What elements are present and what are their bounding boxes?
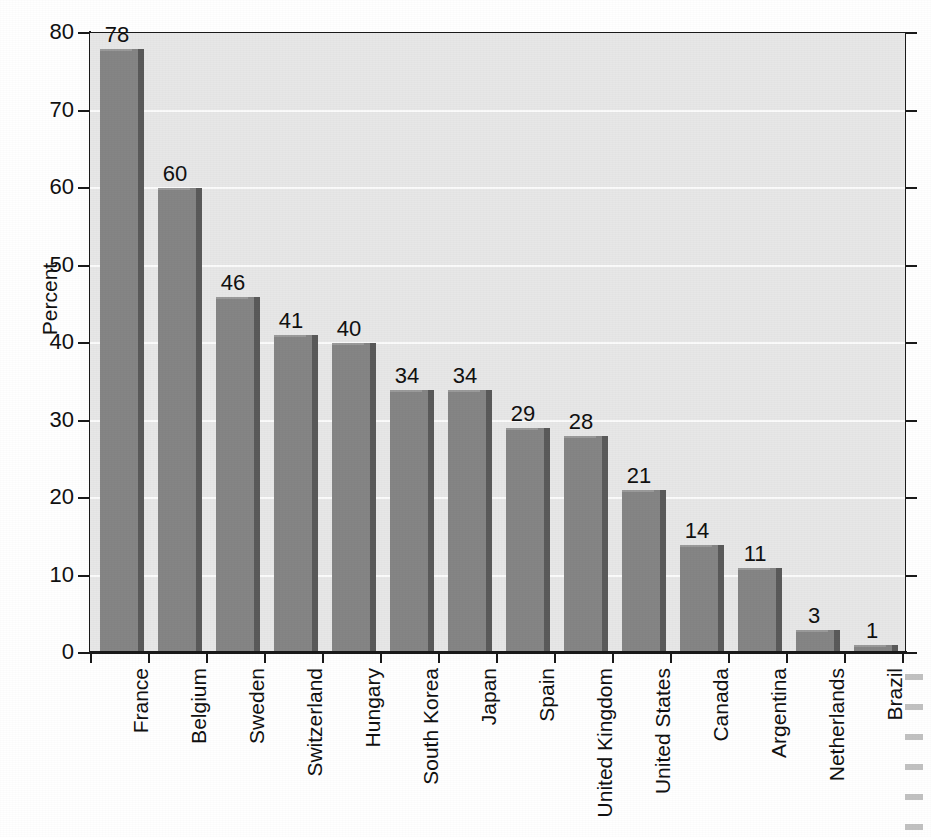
bar-top-highlight — [216, 297, 248, 299]
bar-top-highlight — [622, 490, 654, 492]
bar-value-label: 3 — [808, 605, 820, 627]
y-axis-tick-label: 40 — [0, 331, 74, 353]
bar-value-label: 14 — [685, 520, 709, 542]
chart-page: 78604641403434292821141131 0102030405060… — [0, 0, 931, 837]
y-axis-tick-right — [906, 342, 917, 344]
bar-value-label: 46 — [221, 272, 245, 294]
bar-value-label: 28 — [569, 411, 593, 433]
x-axis-category-label: Japan — [478, 668, 499, 725]
bar: 28 — [564, 436, 608, 653]
bar: 34 — [448, 390, 492, 654]
bar-value-label: 40 — [337, 318, 361, 340]
bar-value-label: 34 — [453, 365, 477, 387]
x-axis-category-label: Brazil — [884, 668, 905, 721]
y-axis-tick-label: 20 — [0, 486, 74, 508]
x-axis-tick — [612, 653, 614, 663]
page-margin-artifact — [905, 665, 923, 830]
bar-value-label: 29 — [511, 403, 535, 425]
y-axis-tick-right — [906, 652, 917, 654]
y-axis-tick-left — [78, 110, 89, 112]
x-axis-category-label: France — [130, 668, 151, 733]
bar-value-label: 1 — [866, 620, 878, 642]
y-axis-tick-label: 70 — [0, 99, 74, 121]
gridline — [90, 420, 905, 422]
x-axis-tick — [148, 653, 150, 663]
x-axis-category-label: United States — [652, 668, 673, 794]
bar-top-highlight — [564, 436, 596, 438]
y-axis-tick-label: 60 — [0, 176, 74, 198]
x-axis-tick — [496, 653, 498, 663]
gridline — [90, 187, 905, 189]
x-axis-tick — [380, 653, 382, 663]
x-axis-category-label: South Korea — [420, 668, 441, 785]
bar: 21 — [622, 490, 666, 653]
x-axis-category-label: Argentina — [768, 668, 789, 758]
y-axis-tick-right — [906, 187, 917, 189]
bar-top-highlight — [506, 428, 538, 430]
x-axis-spine — [89, 651, 907, 654]
x-axis-category-label: Hungary — [362, 668, 383, 747]
y-axis-tick-right — [906, 32, 917, 34]
x-axis-tick — [206, 653, 208, 663]
gridline — [90, 575, 905, 577]
y-axis-tick-right — [906, 497, 917, 499]
x-axis-category-label: United Kingdom — [594, 668, 615, 817]
bar-top-highlight — [390, 390, 422, 392]
bar: 46 — [216, 297, 260, 654]
x-axis-tick — [902, 653, 904, 663]
bar-top-highlight — [796, 630, 828, 632]
x-axis-tick — [670, 653, 672, 663]
bar-top-highlight — [332, 343, 364, 345]
x-axis-category-label: Switzerland — [304, 668, 325, 777]
x-axis-category-label: Sweden — [246, 668, 267, 744]
x-axis-tick — [322, 653, 324, 663]
y-axis-tick-right — [906, 420, 917, 422]
bar: 78 — [100, 49, 144, 654]
y-axis-tick-left — [78, 420, 89, 422]
bar-top-highlight — [448, 390, 480, 392]
x-axis-tick — [844, 653, 846, 663]
bar: 60 — [158, 188, 202, 653]
bar-value-label: 21 — [627, 465, 651, 487]
bar: 11 — [738, 568, 782, 653]
y-axis-tick-label: 0 — [0, 641, 74, 663]
gridline — [90, 497, 905, 499]
y-axis-tick-label: 10 — [0, 564, 74, 586]
gridline — [90, 265, 905, 267]
y-axis-tick-left — [78, 32, 89, 34]
y-axis-tick-label: 50 — [0, 254, 74, 276]
y-axis-tick-label: 30 — [0, 409, 74, 431]
bar-value-label: 78 — [105, 24, 129, 46]
bar-value-label: 11 — [744, 543, 767, 565]
bar-value-label: 34 — [395, 365, 419, 387]
bar: 34 — [390, 390, 434, 654]
x-axis-tick — [728, 653, 730, 663]
y-axis-title: Percent — [38, 239, 62, 359]
y-axis-tick-label: 80 — [0, 21, 74, 43]
y-axis-tick-left — [78, 575, 89, 577]
bar-top-highlight — [274, 335, 306, 337]
x-axis-tick — [554, 653, 556, 663]
x-axis-tick — [786, 653, 788, 663]
bar: 29 — [506, 428, 550, 653]
y-axis-tick-left — [78, 342, 89, 344]
x-axis-tick — [90, 653, 92, 663]
gridline — [90, 110, 905, 112]
y-axis-tick-left — [78, 652, 89, 654]
x-axis-category-label: Canada — [710, 668, 731, 742]
y-axis-tick-right — [906, 110, 917, 112]
plot-area: 78604641403434292821141131 — [90, 32, 906, 653]
bar-top-highlight — [738, 568, 770, 570]
y-axis-tick-left — [78, 497, 89, 499]
y-axis-tick-left — [78, 265, 89, 267]
x-axis-category-label: Belgium — [188, 668, 209, 744]
bar-top-highlight — [100, 49, 132, 51]
x-axis-category-label: Spain — [536, 668, 557, 722]
x-axis-category-label: Netherlands — [826, 668, 847, 781]
bar-value-label: 41 — [279, 310, 303, 332]
x-axis-tick — [264, 653, 266, 663]
y-axis-tick-left — [78, 187, 89, 189]
bar: 41 — [274, 335, 318, 653]
bar: 3 — [796, 630, 840, 653]
bar-top-highlight — [680, 545, 712, 547]
